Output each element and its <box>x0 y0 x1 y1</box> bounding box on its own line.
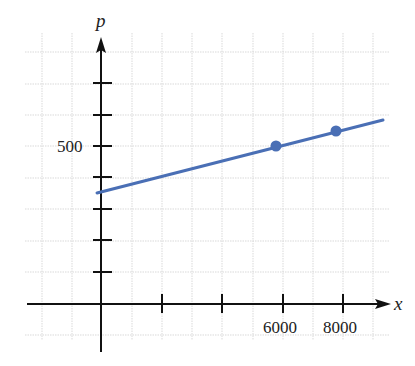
data-point-2 <box>331 126 342 137</box>
x-axis-label: x <box>393 293 403 314</box>
x-tick-label-8000: 8000 <box>323 318 357 337</box>
y-axis-label: p <box>94 10 106 31</box>
axes <box>27 50 378 352</box>
y-tick-label-500: 500 <box>57 137 83 156</box>
y-ticks <box>93 83 112 272</box>
x-tick-label-6000: 6000 <box>263 318 297 337</box>
data-point-1 <box>271 141 282 152</box>
chart: p x 500 6000 8000 <box>0 0 415 366</box>
grid <box>25 33 390 340</box>
